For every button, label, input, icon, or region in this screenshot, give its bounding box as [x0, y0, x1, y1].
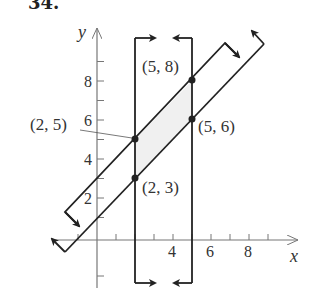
vertex-2-5: [132, 136, 139, 143]
x-axis-label: x: [289, 246, 298, 266]
y-tick-label: 6: [84, 112, 92, 129]
label-5-6: (5, 6): [198, 117, 235, 136]
y-axis: 2468: [84, 28, 104, 288]
y-tick-label: 4: [84, 151, 92, 168]
label-5-8: (5, 8): [142, 57, 179, 76]
vertex-2-3: [132, 175, 139, 182]
label-2-5: (2, 5): [30, 115, 67, 134]
y-axis-label: y: [76, 22, 86, 42]
x-tick-label: 8: [244, 243, 252, 260]
leader-line-2-5: [80, 130, 132, 138]
x-axis: 468: [52, 234, 298, 260]
vertex-5-6: [189, 116, 196, 123]
label-2-3: (2, 3): [142, 178, 179, 197]
y-tick-label: 2: [84, 190, 92, 207]
vertex-5-8: [189, 77, 196, 84]
graph: 468 2468 x y (2, 5) (2, 3) (5, 8) (5, 6): [0, 0, 314, 306]
x-tick-label: 6: [206, 243, 214, 260]
x-tick-label: 4: [168, 243, 176, 260]
y-tick-label: 8: [84, 73, 92, 90]
